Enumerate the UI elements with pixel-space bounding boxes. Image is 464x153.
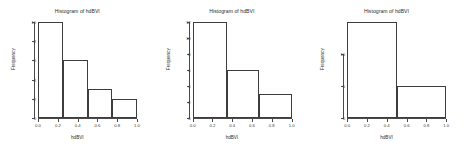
histogram-panel-2: Histogram of hdBVI Frequency hdBVI 02468…: [155, 0, 310, 153]
y-axis-tick-label: 0: [343, 116, 345, 121]
x-axis-tick-label: 0.6: [249, 123, 255, 128]
y-axis-tick-label: 10: [31, 20, 36, 25]
x-axis-tick-label: 0.6: [404, 123, 410, 128]
bars-container-3: [347, 22, 446, 118]
y-axis-tick-label: 5: [343, 84, 345, 89]
x-axis-tick-label: 0.8: [269, 123, 275, 128]
x-axis-2: [193, 118, 292, 119]
histogram-panel-row: Histogram of hdBVI Frequency hdBVI 02468…: [0, 0, 464, 153]
plot-area-3: [347, 22, 446, 118]
x-axis-tick-label: 0.8: [114, 123, 120, 128]
y-axis-tick-label: 10: [186, 36, 191, 41]
histogram-panel-3: Histogram of hdBVI Frequency hdBVI 05100…: [309, 0, 464, 153]
chart-title: Histogram of hdBVI: [0, 8, 155, 14]
x-axis-tick-label: 0.2: [364, 123, 370, 128]
bars-container-1: [38, 22, 137, 118]
x-axis-tick-label: 0.0: [35, 123, 41, 128]
x-axis-tick-label: 0.4: [229, 123, 235, 128]
x-axis-1: [38, 118, 137, 119]
y-axis-label: Frequency: [11, 48, 16, 70]
x-axis-label: hdBVI: [309, 135, 464, 140]
x-axis-label: hdBVI: [155, 135, 310, 140]
y-axis-tick-label: 8: [188, 52, 190, 57]
y-axis-tick-label: 10: [341, 52, 346, 57]
histogram-bar: [88, 89, 113, 118]
x-axis-tick-label: 0.0: [190, 123, 196, 128]
histogram-panel-1: Histogram of hdBVI Frequency hdBVI 02468…: [0, 0, 155, 153]
x-axis-tick-label: 0.8: [423, 123, 429, 128]
y-axis-tick-label: 0: [34, 116, 36, 121]
histogram-bar: [347, 22, 397, 118]
x-axis-tick-label: 1.0: [289, 123, 295, 128]
y-axis-label: Frequency: [166, 48, 171, 70]
y-axis-1: [34, 22, 35, 118]
y-axis-label: Frequency: [320, 48, 325, 70]
histogram-bar: [227, 70, 259, 118]
histogram-bar: [38, 22, 63, 118]
x-axis-3: [347, 118, 446, 119]
histogram-bar: [397, 86, 447, 118]
x-axis-tick-label: 0.4: [384, 123, 390, 128]
histogram-bar: [112, 99, 137, 118]
x-axis-tick-label: 0.0: [344, 123, 350, 128]
plot-area-1: [38, 22, 137, 118]
x-axis-label: hdBVI: [0, 135, 155, 140]
chart-title: Histogram of hdBVI: [155, 8, 310, 14]
x-axis-tick-label: 0.2: [55, 123, 61, 128]
histogram-bar: [259, 94, 292, 118]
bars-container-2: [193, 22, 292, 118]
x-axis-tick-label: 0.4: [75, 123, 81, 128]
x-axis-tick-label: 0.2: [209, 123, 215, 128]
x-axis-tick-label: 0.6: [94, 123, 100, 128]
y-axis-tick-label: 2: [34, 96, 36, 101]
x-axis-tick-label: 1.0: [134, 123, 140, 128]
y-axis-tick-label: 4: [188, 84, 190, 89]
y-axis-tick-label: 12: [186, 20, 191, 25]
y-axis-tick-label: 6: [34, 58, 36, 63]
plot-area-2: [193, 22, 292, 118]
y-axis-tick-label: 4: [34, 77, 36, 82]
chart-title: Histogram of hdBVI: [309, 8, 464, 14]
x-axis-tick-label: 1.0: [443, 123, 449, 128]
y-axis-tick-label: 0: [188, 116, 190, 121]
y-axis-tick-label: 6: [188, 68, 190, 73]
histogram-bar: [193, 22, 228, 118]
y-axis-tick-label: 8: [34, 39, 36, 44]
y-axis-tick-label: 2: [188, 100, 190, 105]
histogram-bar: [63, 60, 88, 118]
